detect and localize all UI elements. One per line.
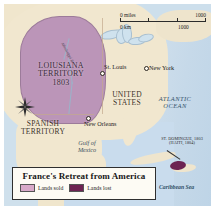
label-st-louis: St. Louis bbox=[104, 64, 126, 71]
scale-tick-1 bbox=[148, 18, 149, 22]
scale-miles-zero-label: 0 miles bbox=[120, 12, 136, 18]
label-spanish-territory: SPANISH TERRITORY bbox=[12, 120, 74, 136]
legend-item-lands-sold: Lands sold bbox=[20, 184, 63, 192]
gulf-line-2: Mexico bbox=[66, 147, 108, 154]
atlantic-line-2: OCEAN bbox=[147, 103, 203, 110]
label-louisiana-territory: LOIUSIANA TERRITORY 1803 bbox=[30, 62, 92, 87]
label-st-domingue: ST. DOMINGUE, 1803 (HAITI, 1804) bbox=[150, 137, 211, 146]
eastern-boundary-line bbox=[102, 18, 103, 114]
lands-lost-label: Lands lost bbox=[87, 185, 111, 191]
scale-km-max-label: 1000 bbox=[178, 24, 189, 30]
scale-tick-2 bbox=[177, 18, 178, 22]
scale-row-km: 0 km 1000 bbox=[120, 23, 206, 33]
united-states-line-2: STATES bbox=[104, 99, 150, 107]
label-caribbean-sea: Caribbean Sea bbox=[159, 184, 194, 190]
scale-row-miles: 0 miles 1000 bbox=[120, 12, 206, 23]
spanish-territory-line-2: TERRITORY bbox=[12, 128, 74, 136]
st-louis-marker bbox=[100, 71, 105, 76]
label-gulf-of-mexico: Gulf of Mexico bbox=[66, 140, 108, 153]
historical-map-figure: 0 miles 1000 0 km 1000 bbox=[0, 0, 215, 210]
scale-axis-line-miles bbox=[120, 21, 206, 22]
scale-km-zero-label: 0 km bbox=[120, 24, 131, 30]
lands-sold-swatch bbox=[20, 184, 35, 192]
label-atlantic-ocean: ATLANTIC OCEAN bbox=[147, 96, 203, 110]
louisiana-line-3: 1803 bbox=[30, 79, 92, 87]
legend-items: Lands sold Lands lost bbox=[18, 184, 150, 192]
map-legend: France's Retreat from America Lands sold… bbox=[12, 167, 156, 200]
map-canvas: 0 miles 1000 0 km 1000 bbox=[4, 4, 211, 206]
lands-sold-label: Lands sold bbox=[38, 185, 63, 191]
compass-rose-icon bbox=[14, 96, 36, 118]
st-domingue-line-2: (HAITI, 1804) bbox=[150, 141, 211, 145]
legend-item-lands-lost: Lands lost bbox=[69, 184, 111, 192]
lands-lost-swatch bbox=[69, 184, 84, 192]
label-united-states: UNITED STATES bbox=[104, 91, 150, 107]
label-new-york: New York bbox=[149, 65, 174, 72]
compass-rose bbox=[14, 96, 36, 118]
label-new-orleans: New Orleans bbox=[84, 121, 116, 128]
southern-boundary-line bbox=[34, 114, 94, 115]
legend-title: France's Retreat from America bbox=[18, 171, 150, 181]
scale-tick-3 bbox=[205, 18, 206, 22]
scale-tick-0 bbox=[120, 18, 121, 22]
scale-bar: 0 miles 1000 0 km 1000 bbox=[120, 12, 206, 33]
